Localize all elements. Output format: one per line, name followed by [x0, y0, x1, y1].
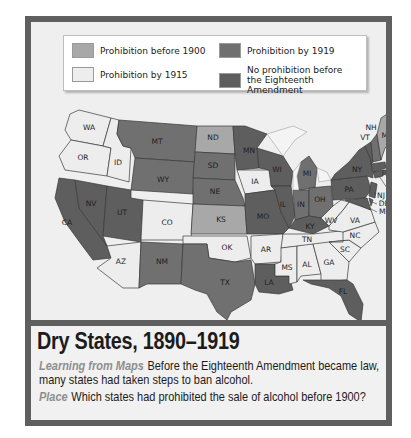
label-KY: KY: [305, 222, 315, 231]
label-NV: NV: [86, 199, 98, 208]
label-VT: VT: [360, 133, 370, 142]
label-WV: WV: [325, 216, 338, 225]
label-AL: AL: [302, 260, 312, 269]
label-NY: NY: [352, 165, 363, 174]
label-KS: KS: [216, 215, 226, 224]
label-TN: TN: [301, 235, 312, 244]
label-OR: OR: [77, 153, 88, 162]
legend-label: Prohibition before 1900: [100, 46, 206, 56]
legend-swatch-no-prohibition: [219, 73, 241, 88]
label-PA: PA: [344, 185, 354, 194]
legend-item-by-1915: Prohibition by 1915: [72, 67, 188, 82]
legend-swatch-by-1919: [219, 43, 241, 58]
label-IN: IN: [297, 200, 305, 209]
place-keyword: Place: [39, 390, 68, 404]
legend-item-by-1919: Prohibition by 1919: [219, 43, 335, 58]
label-ME: ME: [381, 131, 386, 140]
label-MN: MN: [243, 146, 255, 155]
label-WY: WY: [157, 175, 169, 184]
state-FL[interactable]: [303, 280, 363, 320]
map-caption: Dry States, 1890–1919 Learning from Maps…: [31, 326, 386, 420]
label-NE: NE: [210, 187, 221, 196]
legend-label: No prohibition before the Eighteenth Ame…: [247, 65, 357, 95]
learning-from-maps-paragraph: Learning from MapsBefore the Eighteenth …: [39, 359, 386, 387]
label-IA: IA: [251, 177, 259, 186]
label-MI: MI: [303, 169, 312, 178]
label-AR: AR: [261, 245, 271, 254]
label-ND: ND: [207, 133, 219, 142]
label-GA: GA: [324, 258, 336, 267]
map-panel: WA OR ID MT WY UT NV CA AZ CO NM ND SD N…: [31, 22, 386, 320]
label-FL: FL: [339, 287, 348, 296]
label-CO: CO: [161, 218, 172, 227]
legend-item-no-prohibition: No prohibition before the Eighteenth Ame…: [219, 65, 357, 95]
label-WI: WI: [272, 165, 282, 174]
label-MS: MS: [281, 263, 292, 272]
label-SC: SC: [340, 245, 350, 254]
map-figure-frame: WA OR ID MT WY UT NV CA AZ CO NM ND SD N…: [25, 16, 392, 426]
map-title: Dry States, 1890–1919: [37, 328, 239, 355]
legend-swatch-by-1915: [72, 67, 94, 82]
label-TX: TX: [219, 278, 230, 287]
legend-item-before-1900: Prohibition before 1900: [72, 43, 206, 58]
label-MD: MD: [379, 207, 386, 216]
legend-swatch-before-1900: [72, 43, 94, 58]
map-legend: Prohibition before 1900 Prohibition by 1…: [63, 35, 367, 91]
label-ID: ID: [114, 158, 122, 167]
place-question-paragraph: PlaceWhich states had prohibited the sal…: [39, 390, 386, 404]
label-MT: MT: [151, 137, 162, 146]
label-NM: NM: [156, 257, 168, 266]
place-text: Which states had prohibited the sale of …: [71, 390, 366, 404]
label-LA: LA: [264, 278, 274, 287]
state-NJ[interactable]: [369, 182, 377, 198]
legend-label: Prohibition by 1915: [100, 70, 188, 80]
label-VA: VA: [350, 216, 361, 225]
label-CA: CA: [62, 218, 73, 227]
legend-label: Prohibition by 1919: [247, 46, 335, 56]
learning-keyword: Learning from Maps: [39, 359, 144, 373]
label-SD: SD: [208, 161, 219, 170]
label-UT: UT: [117, 208, 127, 217]
label-AZ: AZ: [116, 257, 126, 266]
label-NC: NC: [350, 231, 361, 240]
label-NH: NH: [365, 123, 376, 132]
label-WA: WA: [83, 123, 96, 132]
label-IL: IL: [280, 200, 287, 209]
label-OH: OH: [314, 195, 326, 204]
label-MO: MO: [257, 212, 269, 221]
label-OK: OK: [222, 243, 234, 252]
state-NY[interactable]: [331, 146, 373, 180]
